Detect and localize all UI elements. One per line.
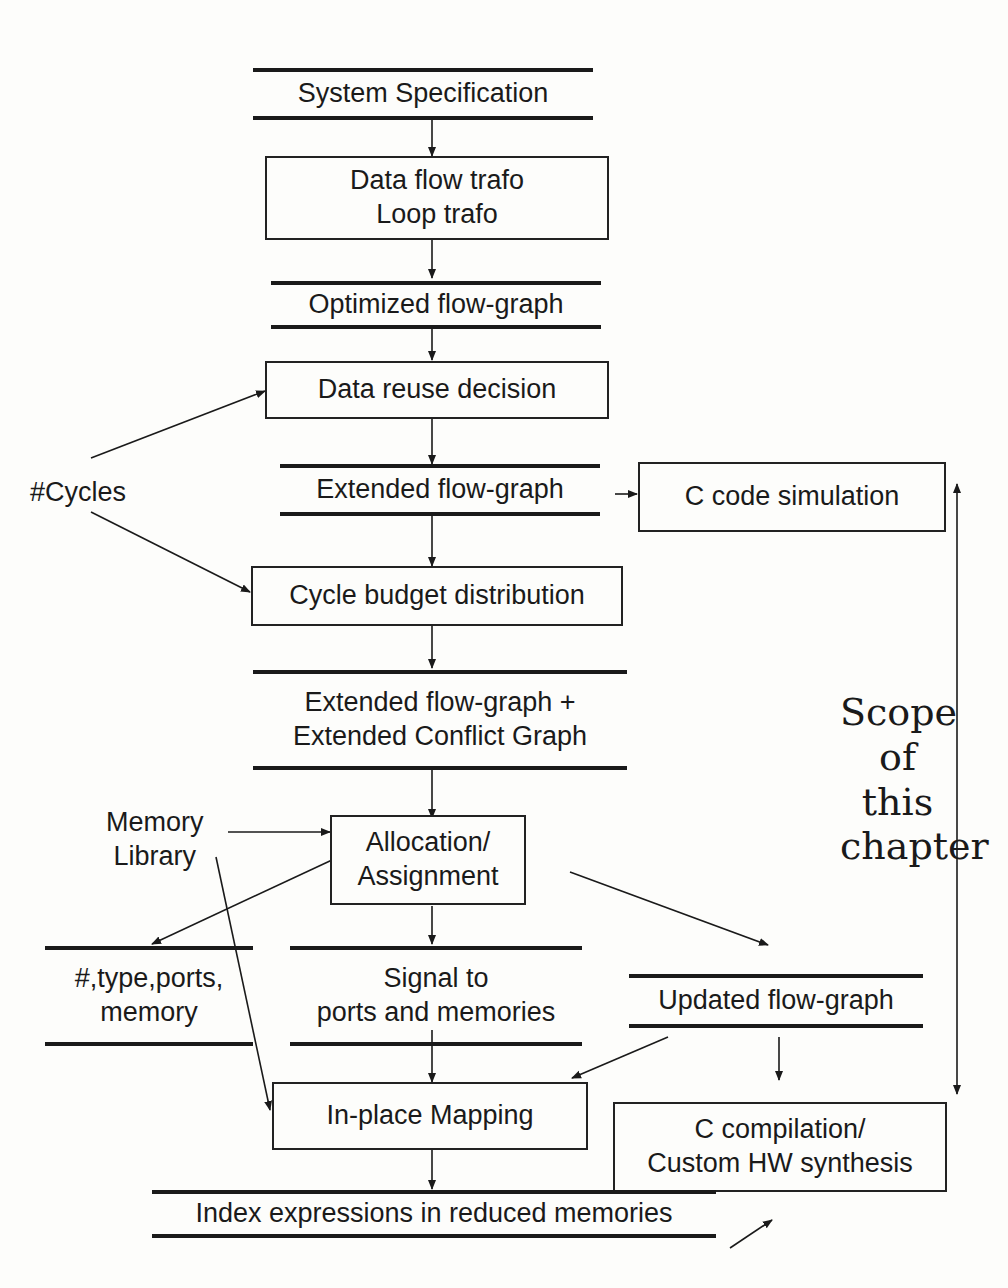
store-index-expressions: Index expressions in reduced memories [152,1190,716,1238]
process-cycle-budget-distribution: Cycle budget distribution [251,566,623,626]
process-label: In-place Mapping [274,1099,586,1133]
store-updated-flow-graph: Updated flow-graph [629,974,923,1028]
process-label: Cycle budget distribution [253,579,621,613]
store-label-line1: #,type,ports, [45,962,253,996]
process-label: Data reuse decision [267,373,607,407]
process-c-code-simulation: C code simulation [638,462,946,532]
store-optimized-flow-graph: Optimized flow-graph [271,281,601,329]
process-label-line1: C compilation/ [615,1113,945,1147]
scope-annotation: Scope of this chapter [840,690,955,869]
store-label: Index expressions in reduced memories [152,1197,716,1231]
store-label: System Specification [253,77,593,111]
store-label-line2: memory [45,996,253,1030]
process-label: C code simulation [640,480,944,514]
store-label: Optimized flow-graph [271,288,601,322]
store-label: Updated flow-graph [629,984,923,1018]
process-label-line1: Allocation/ [332,826,524,860]
store-label-line2: Extended Conflict Graph [253,720,627,754]
process-label-line2: Assignment [332,860,524,894]
process-data-reuse-decision: Data reuse decision [265,361,609,419]
process-allocation-assignment: Allocation/ Assignment [330,815,526,905]
store-extended-fg-conflict-graph: Extended flow-graph + Extended Conflict … [253,670,627,770]
store-label-line1: Extended flow-graph + [253,686,627,720]
store-type-ports-memory: #,type,ports, memory [45,946,253,1046]
store-label-line2: ports and memories [290,996,582,1030]
process-c-compilation: C compilation/ Custom HW synthesis [613,1102,947,1192]
store-system-specification: System Specification [253,68,593,120]
process-label-line2: Custom HW synthesis [615,1147,945,1181]
process-label-line2: Loop trafo [267,198,607,232]
input-memory-library: Memory Library [106,806,204,874]
input-cycles: #Cycles [30,476,126,510]
store-extended-flow-graph: Extended flow-graph [280,464,600,516]
process-data-flow-loop-trafo: Data flow trafo Loop trafo [265,156,609,240]
process-in-place-mapping: In-place Mapping [272,1082,588,1150]
store-signal-to-ports: Signal to ports and memories [290,946,582,1046]
store-label-line1: Signal to [290,962,582,996]
process-label-line1: Data flow trafo [267,164,607,198]
store-label: Extended flow-graph [280,473,600,507]
